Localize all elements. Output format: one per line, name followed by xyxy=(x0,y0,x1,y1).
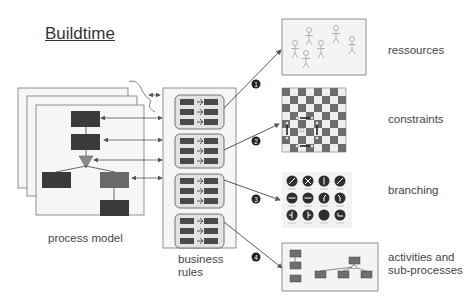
chess-square xyxy=(314,104,322,112)
chess-square xyxy=(298,88,306,96)
people-icon xyxy=(282,19,366,75)
chess-square xyxy=(314,144,322,152)
chess-square xyxy=(306,96,314,104)
rule-action xyxy=(204,178,218,184)
chess-square xyxy=(330,144,338,152)
chess-square xyxy=(282,96,290,104)
target-label-branching: branching xyxy=(388,184,439,197)
chess-square xyxy=(306,120,314,128)
target-label-activities-line1: activities and xyxy=(388,251,463,264)
rule-action xyxy=(204,238,218,244)
chess-square xyxy=(282,144,290,152)
chessboard-icon xyxy=(282,88,346,152)
business-rules-label-line1: business xyxy=(178,253,223,266)
chess-square xyxy=(314,128,322,136)
chess-square xyxy=(282,104,290,112)
rule-action xyxy=(204,148,218,154)
rule-condition xyxy=(180,119,194,125)
number-badges: 1 2 3 4 xyxy=(252,80,261,262)
chess-square xyxy=(298,136,306,144)
chess-square xyxy=(330,112,338,120)
chess-square xyxy=(330,136,338,144)
rule-action xyxy=(204,109,218,115)
chess-square xyxy=(298,120,306,128)
chess-square xyxy=(338,128,346,136)
chess-square xyxy=(338,88,346,96)
chess-square xyxy=(290,120,298,128)
svg-text:1: 1 xyxy=(254,81,258,88)
rule-condition xyxy=(180,158,194,164)
chess-square xyxy=(322,128,330,136)
chess-square xyxy=(338,120,346,128)
chess-square xyxy=(338,112,346,120)
rule-condition xyxy=(180,148,194,154)
business-rules xyxy=(163,88,236,248)
chess-square xyxy=(306,136,314,144)
chess-square xyxy=(330,96,338,104)
rule-action xyxy=(204,188,218,194)
activity-diagram-icon xyxy=(282,243,378,291)
chess-square xyxy=(306,88,314,96)
chess-square xyxy=(290,128,298,136)
chess-square xyxy=(282,128,290,136)
rule-group-4 xyxy=(175,214,224,248)
target-label-activities: activities and sub-processes xyxy=(388,251,463,277)
rule-action xyxy=(204,218,218,224)
chess-square xyxy=(314,112,322,120)
rule-action xyxy=(204,158,218,164)
rule-condition xyxy=(180,99,194,105)
chess-square xyxy=(338,96,346,104)
activity-block-2 xyxy=(71,134,100,150)
target-label-constraints: constraints xyxy=(388,113,444,126)
svg-text:2: 2 xyxy=(254,138,258,145)
target-label-activities-line2: sub-processes xyxy=(388,264,463,277)
chess-square xyxy=(314,96,322,104)
rule-action xyxy=(204,99,218,105)
svg-text:4: 4 xyxy=(254,254,258,261)
rule-condition xyxy=(180,178,194,184)
chess-square xyxy=(298,104,306,112)
chess-square xyxy=(330,128,338,136)
chess-square xyxy=(290,104,298,112)
chess-square xyxy=(290,96,298,104)
traffic-signs-icon xyxy=(282,172,352,228)
rule-action xyxy=(204,119,218,125)
svg-text:3: 3 xyxy=(254,196,258,203)
process-model-label: process model xyxy=(48,232,123,245)
chess-square xyxy=(290,88,298,96)
chess-square xyxy=(338,144,346,152)
activity-block-bottom xyxy=(100,200,129,216)
chess-square xyxy=(282,88,290,96)
target-arrow-1 xyxy=(224,50,281,108)
chess-square xyxy=(338,104,346,112)
chess-square xyxy=(322,96,330,104)
chess-square xyxy=(322,120,330,128)
rule-action xyxy=(204,228,218,234)
rule-condition xyxy=(180,198,194,204)
rule-action xyxy=(204,198,218,204)
chess-square xyxy=(298,96,306,104)
rule-condition xyxy=(180,188,194,194)
rule-group-2 xyxy=(175,134,224,168)
chess-square xyxy=(290,136,298,144)
chess-square xyxy=(306,104,314,112)
activity-block-1 xyxy=(71,111,100,127)
rule-condition xyxy=(180,109,194,115)
chess-square xyxy=(338,136,346,144)
rule-group-3 xyxy=(175,174,224,208)
rule-group-1 xyxy=(175,95,224,129)
chess-square xyxy=(322,88,330,96)
chess-square xyxy=(322,104,330,112)
business-rules-label-line2: rules xyxy=(178,266,223,279)
rule-action xyxy=(204,138,218,144)
chess-square xyxy=(322,112,330,120)
chess-square xyxy=(322,144,330,152)
chess-square xyxy=(306,128,314,136)
activity-block-right xyxy=(100,172,129,188)
process-model xyxy=(18,88,144,216)
chess-square xyxy=(314,88,322,96)
rule-condition xyxy=(180,138,194,144)
rule-condition xyxy=(180,218,194,224)
chess-square xyxy=(298,112,306,120)
chess-square xyxy=(282,112,290,120)
